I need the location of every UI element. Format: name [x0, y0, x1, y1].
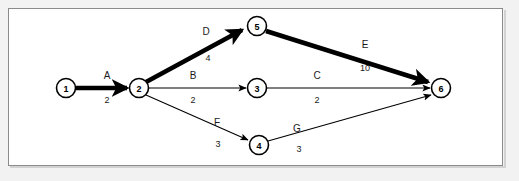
node-5-label: 5 [254, 22, 259, 32]
node-2[interactable]: 2 [130, 79, 149, 98]
edge-E-label: E [362, 39, 369, 50]
edge-E-weight: 10 [360, 63, 370, 73]
edge-G-label: G [293, 123, 301, 134]
edge-B: B 2 [149, 70, 246, 105]
edge-B-label: B [190, 70, 197, 81]
node-6-label: 6 [438, 84, 443, 94]
edge-D-weight: 4 [205, 53, 210, 63]
edge-F: F 3 [146, 95, 248, 149]
node-4-label: 4 [256, 141, 261, 151]
edge-E-line [266, 31, 428, 82]
node-1[interactable]: 1 [57, 79, 76, 98]
node-6[interactable]: 6 [432, 79, 451, 98]
edge-E: E 10 [266, 31, 428, 82]
node-1-label: 1 [63, 84, 68, 94]
edge-A-label: A [104, 70, 111, 81]
edge-G-line [268, 95, 431, 141]
edge-F-line [146, 95, 248, 140]
node-3[interactable]: 3 [248, 79, 267, 98]
edge-C-weight: 2 [314, 95, 319, 105]
edge-G-weight: 3 [296, 144, 301, 154]
edge-A-weight: 2 [104, 95, 109, 105]
node-3-label: 3 [254, 84, 259, 94]
edge-A: A 2 [76, 70, 127, 105]
node-4[interactable]: 4 [250, 136, 269, 155]
node-5[interactable]: 5 [248, 17, 267, 36]
edge-F-weight: 3 [215, 139, 220, 149]
node-2-label: 2 [136, 84, 141, 94]
edge-C-label: C [313, 70, 320, 81]
edge-G: G 3 [268, 95, 431, 154]
network-diagram-canvas: A 2 D 4 E 10 B 2 C 2 F [0, 0, 519, 181]
edge-D-label: D [202, 26, 209, 37]
edge-F-label: F [214, 117, 220, 128]
diagram-screenshot: A 2 D 4 E 10 B 2 C 2 F [0, 0, 519, 181]
edge-B-weight: 2 [190, 95, 195, 105]
